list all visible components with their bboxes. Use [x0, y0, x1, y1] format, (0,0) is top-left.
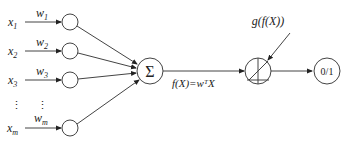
ellipsis-weights: ⋮ — [37, 99, 48, 111]
input-row-m: xm wm — [6, 111, 78, 137]
weight-label-w2: w2 — [36, 35, 48, 51]
sigma-symbol: Σ — [145, 63, 154, 80]
weight-label-w1: w1 — [36, 6, 48, 22]
input-label-x3: x3 — [7, 73, 17, 89]
input-label-xm: xm — [6, 121, 18, 137]
edge-label-activation — [268, 33, 290, 60]
ellipsis-inputs: ⋮ — [11, 99, 22, 111]
output-label: 0/1 — [321, 66, 334, 77]
edge-m-sum — [77, 80, 139, 124]
edge-3-sum — [78, 73, 136, 79]
weight-label-wm: wm — [34, 111, 48, 127]
weight-label-w3: w3 — [36, 64, 48, 80]
weight-node-3 — [62, 72, 78, 88]
activation-node — [245, 58, 271, 84]
input-label-x1: x1 — [7, 15, 17, 31]
edge-2-sum — [78, 53, 136, 68]
input-label-x2: x2 — [7, 44, 17, 60]
sum-output-formula: f(X)=wᵀX — [172, 77, 216, 90]
weight-node-2 — [62, 43, 78, 59]
weight-node-m — [62, 120, 78, 136]
input-row-2: x2 w2 — [7, 35, 78, 60]
input-row-3: x3 w3 — [7, 64, 78, 89]
perceptron-diagram: x1 w1 x2 w2 x3 w3 ⋮ ⋮ xm wm Σ f(X)=wᵀX — [0, 0, 351, 146]
input-row-1: x1 w1 — [7, 6, 78, 31]
weight-node-1 — [62, 14, 78, 30]
edge-1-sum — [77, 26, 137, 64]
activation-label: g(f(X)) — [252, 14, 285, 28]
